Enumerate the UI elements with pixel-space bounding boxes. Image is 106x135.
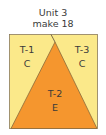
piece-t2-fabric: E: [40, 101, 70, 115]
piece-t1-id: T-1: [12, 43, 42, 57]
piece-t1-fabric: C: [12, 57, 42, 71]
piece-t3-fabric: C: [67, 57, 97, 71]
piece-t2-id: T-2: [40, 87, 70, 101]
piece-t3-id: T-3: [67, 43, 97, 57]
